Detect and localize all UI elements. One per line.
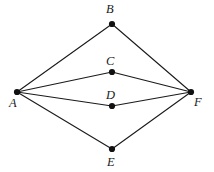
vertex-label-b: B — [106, 3, 114, 15]
edges-group — [17, 24, 191, 149]
edge-a-d — [17, 92, 112, 106]
vertex-label-f: F — [194, 96, 202, 108]
vertex-dot-c — [109, 69, 115, 75]
graph-figure: ABCDEF — [0, 0, 214, 172]
edge-a-e — [17, 92, 112, 149]
vertex-dot-a — [14, 89, 20, 95]
edge-d-f — [112, 92, 191, 106]
vertex-dot-e — [109, 146, 115, 152]
vertex-label-a: A — [9, 97, 17, 109]
vertex-dot-d — [109, 103, 115, 109]
vertex-label-d: D — [106, 89, 115, 101]
vertex-dot-b — [109, 21, 115, 27]
graph-canvas — [0, 0, 214, 172]
vertex-label-c: C — [106, 55, 114, 67]
vertex-label-e: E — [107, 156, 115, 168]
edge-e-f — [112, 92, 191, 149]
